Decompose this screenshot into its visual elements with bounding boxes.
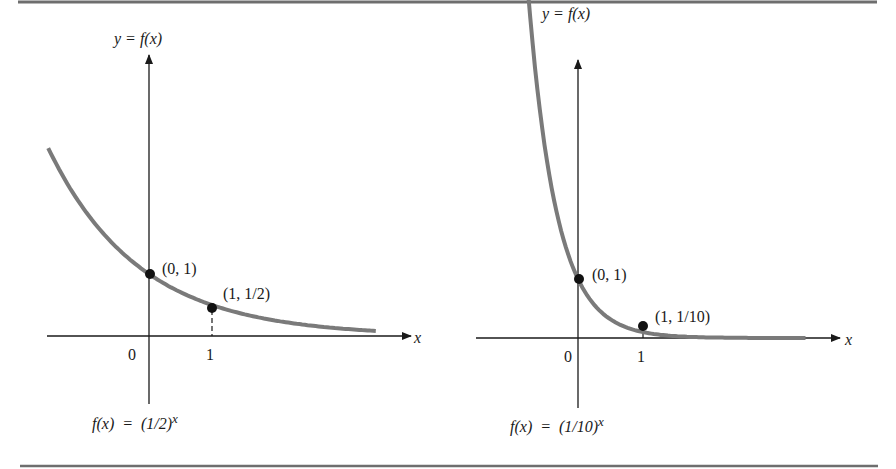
tick-label-1: 1 (637, 348, 645, 365)
y-axis-label: y = f(x) (540, 5, 590, 23)
point-label-1-half: (1, 1/2) (223, 285, 270, 303)
function-label: f(x) = (1/2)x (92, 411, 178, 433)
tick-label-0: 0 (128, 346, 136, 363)
point-1-tenth (638, 321, 648, 331)
point-label-1-tenth: (1, 1/10) (655, 308, 710, 326)
tick-label-1: 1 (206, 346, 214, 363)
figure-canvas: (0, 1) (1, 1/2) 0 1 x y = f(x) f(x) = (1… (0, 0, 896, 469)
chart-tenth-exponential: (0, 1) (1, 1/10) 0 1 x y = f(x) f(x) = (… (476, 0, 852, 436)
point-0-1 (574, 274, 584, 284)
point-label-0-1: (0, 1) (592, 266, 627, 284)
chart-half-exponential: (0, 1) (1, 1/2) 0 1 x y = f(x) f(x) = (1… (47, 30, 421, 433)
function-label: f(x) = (1/10)x (510, 414, 604, 436)
point-label-0-1: (0, 1) (162, 260, 197, 278)
x-axis-label: x (844, 331, 852, 348)
point-1-half (207, 303, 217, 313)
y-axis-label: y = f(x) (112, 30, 162, 48)
curve-tenth-power (521, 0, 806, 338)
point-0-1 (145, 269, 155, 279)
x-axis-label: x (413, 329, 421, 346)
tick-label-0: 0 (564, 348, 572, 365)
